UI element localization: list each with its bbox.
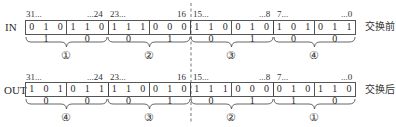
- out-register: 1 0 1 0 0 1 1 0 1 1 0 0 0 1 0 1 1 1 1 0 …: [25, 82, 356, 97]
- out-bit-31: 31...: [26, 72, 42, 82]
- in-nibble-6: 0 1 0 1: [232, 21, 273, 34]
- in-row-suffix: 交换前: [365, 21, 395, 33]
- in-nibble-4: 0 0 0 1: [150, 21, 191, 34]
- in-bit-24: ...24: [87, 9, 103, 19]
- in-byte-marker-4: ④: [304, 49, 324, 61]
- out-byte-marker-1: ④: [56, 111, 76, 123]
- out-byte-marker-3: ②: [221, 111, 241, 123]
- in-nibble-7: 1 0 1 0: [274, 21, 315, 34]
- out-row-suffix: 交换后: [365, 84, 395, 96]
- out-byte-marker-4: ①: [304, 111, 324, 123]
- out-braces: [26, 99, 355, 109]
- out-bit-15: 15...: [193, 72, 209, 82]
- in-nibble-8: 0 1 1 0: [315, 21, 355, 34]
- out-nibble-1: 1 0 1 0: [26, 83, 67, 96]
- in-bit-8: ...8: [259, 9, 270, 19]
- in-braces: [26, 37, 355, 47]
- in-byte-marker-1: ①: [56, 49, 76, 61]
- out-bit-16: 16: [177, 72, 186, 82]
- in-byte-marker-3: ③: [221, 49, 241, 61]
- in-nibble-1: 0 1 0 1: [26, 21, 67, 34]
- out-nibble-7: 0 1 0 1: [274, 83, 315, 96]
- out-row-label: OUT: [4, 84, 27, 96]
- out-bit-0: ...0: [341, 72, 352, 82]
- in-bit-31: 31...: [26, 9, 42, 19]
- in-bit-0: ...0: [341, 9, 352, 19]
- in-bit-15: 15...: [193, 9, 209, 19]
- out-nibble-4: 0 1 0 1: [150, 83, 191, 96]
- in-nibble-3: 1 1 1 0: [109, 21, 150, 34]
- in-bit-16: 16: [177, 9, 186, 19]
- in-nibble-2: 1 1 0 0: [67, 21, 108, 34]
- out-nibble-5: 1 1 1 0: [191, 83, 232, 96]
- out-nibble-2: 0 1 1 0: [67, 83, 108, 96]
- out-nibble-3: 1 1 0 0: [109, 83, 150, 96]
- out-byte-marker-2: ③: [139, 111, 159, 123]
- in-byte-marker-2: ②: [139, 49, 159, 61]
- out-bit-23: 23...: [110, 72, 126, 82]
- in-row-label: IN: [5, 21, 17, 33]
- out-nibble-8: 1 1 0 0: [315, 83, 355, 96]
- in-bit-23: 23...: [110, 9, 126, 19]
- in-bit-7: 7...: [277, 9, 288, 19]
- in-nibble-5: 1 1 0 0: [191, 21, 232, 34]
- out-bit-24: ...24: [87, 72, 103, 82]
- in-register: 0 1 0 1 1 1 0 0 1 1 1 0 0 0 0 1 1 1 0 0 …: [25, 20, 356, 35]
- out-nibble-6: 0 0 0 1: [232, 83, 273, 96]
- out-bit-8: ...8: [259, 72, 270, 82]
- out-bit-7: 7...: [277, 72, 288, 82]
